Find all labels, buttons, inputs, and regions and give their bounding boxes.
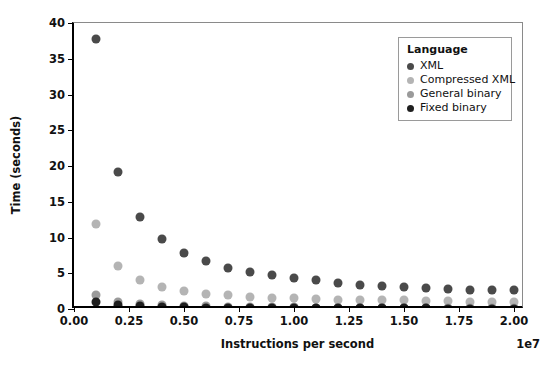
x-tick-label: 1.50: [390, 314, 418, 328]
chart-figure: Time (seconds) 0510152025303540 0.000.25…: [0, 0, 554, 369]
y-axis-title: Time (seconds): [9, 116, 23, 215]
x-tick-mark: [349, 306, 350, 312]
x-tick-mark: [129, 306, 130, 312]
scatter-point: [114, 301, 123, 306]
scatter-point: [114, 262, 123, 271]
x-tick-mark: [184, 306, 185, 312]
x-tick-label: 0.75: [225, 314, 253, 328]
y-tick-label: 25: [49, 123, 65, 137]
scatter-point: [246, 267, 255, 276]
legend-item-general-binary[interactable]: General binary: [407, 87, 504, 101]
scatter-point: [312, 304, 321, 306]
scatter-point: [466, 285, 475, 294]
scatter-point: [202, 257, 211, 266]
y-tick-label: 10: [49, 231, 65, 245]
y-tick-label: 35: [49, 52, 65, 66]
scatter-point: [422, 304, 431, 306]
scatter-point: [246, 303, 255, 306]
scatter-point: [334, 278, 343, 287]
scatter-point: [400, 282, 409, 291]
x-tick-mark: [74, 306, 75, 312]
legend-marker-icon: [407, 105, 414, 112]
scatter-point: [158, 282, 167, 291]
scatter-point: [224, 263, 233, 272]
x-tick-label: 1.00: [280, 314, 308, 328]
legend: Language XMLCompressed XMLGeneral binary…: [398, 37, 512, 121]
scatter-point: [290, 274, 299, 283]
x-tick-label: 2.00: [500, 314, 528, 328]
scatter-point: [92, 34, 101, 43]
x-tick-label: 0.50: [170, 314, 198, 328]
y-tick-label: 5: [57, 266, 65, 280]
x-axis-title: Instructions per second: [72, 337, 523, 351]
legend-title: Language: [407, 43, 504, 57]
scatter-point: [378, 304, 387, 306]
x-tick-label: 1.25: [335, 314, 363, 328]
scatter-point: [400, 304, 409, 306]
scatter-point: [334, 304, 343, 306]
scatter-point: [290, 304, 299, 306]
scatter-point: [488, 286, 497, 295]
scatter-point: [136, 275, 145, 284]
y-tick-label: 40: [49, 16, 65, 30]
legend-item-label: General binary: [420, 87, 502, 101]
legend-marker-icon: [407, 91, 414, 98]
scatter-point: [136, 302, 145, 306]
legend-item-compressed-xml[interactable]: Compressed XML: [407, 73, 504, 87]
scatter-point: [92, 219, 101, 228]
scatter-point: [268, 271, 277, 280]
scatter-point: [466, 304, 475, 306]
scatter-point: [268, 293, 277, 302]
scatter-point: [422, 284, 431, 293]
scatter-point: [290, 294, 299, 303]
x-tick-label: 1.75: [445, 314, 473, 328]
legend-item-label: Compressed XML: [420, 73, 515, 87]
scatter-point: [356, 304, 365, 306]
scatter-point: [224, 303, 233, 306]
legend-item-fixed-binary[interactable]: Fixed binary: [407, 101, 504, 115]
x-tick-mark: [239, 306, 240, 312]
y-tick-label: 15: [49, 195, 65, 209]
scatter-point: [180, 287, 189, 296]
y-tick-label: 30: [49, 88, 65, 102]
scatter-point: [202, 289, 211, 298]
legend-item-xml[interactable]: XML: [407, 59, 504, 73]
legend-item-label: XML: [420, 59, 443, 73]
scatter-point: [92, 297, 101, 306]
scatter-point: [510, 286, 519, 295]
scatter-point: [312, 276, 321, 285]
x-tick-label: 0.00: [60, 314, 88, 328]
scatter-point: [136, 212, 145, 221]
scatter-point: [444, 284, 453, 293]
legend-item-label: Fixed binary: [420, 101, 487, 115]
scatter-point: [378, 282, 387, 291]
scatter-point: [268, 304, 277, 306]
scatter-point: [158, 303, 167, 306]
scatter-point: [444, 304, 453, 306]
y-tick-label: 20: [49, 159, 65, 173]
x-tick-mark: [514, 306, 515, 312]
scatter-point: [356, 280, 365, 289]
scatter-point: [246, 292, 255, 301]
scatter-point: [224, 291, 233, 300]
scatter-point: [202, 303, 211, 306]
x-tick-mark: [294, 306, 295, 312]
x-tick-label: 0.25: [115, 314, 143, 328]
legend-marker-icon: [407, 63, 414, 70]
scatter-point: [180, 303, 189, 306]
x-tick-mark: [404, 306, 405, 312]
legend-marker-icon: [407, 77, 414, 84]
scatter-point: [158, 234, 167, 243]
scatter-point: [488, 304, 497, 306]
scatter-point: [114, 167, 123, 176]
x-axis-exponent-label: 1e7: [516, 337, 540, 351]
scatter-point: [180, 248, 189, 257]
legend-items: XMLCompressed XMLGeneral binaryFixed bin…: [407, 59, 504, 115]
x-tick-mark: [459, 306, 460, 312]
